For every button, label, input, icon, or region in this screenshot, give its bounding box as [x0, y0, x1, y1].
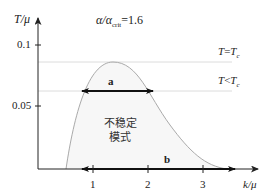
- unstable-mode-line2: 模式: [98, 131, 142, 145]
- t-equals-tc-label: T=Tc: [218, 46, 240, 60]
- arrow-a-label: a: [108, 76, 114, 87]
- arrow-b-label: b: [164, 154, 170, 165]
- unstable-mode-line1: 不稳定: [98, 117, 142, 131]
- t-less-tc-label: T<Tc: [218, 75, 240, 89]
- title-sub: crit: [112, 21, 121, 29]
- y-tick-label-0.1: 0.1: [17, 39, 31, 50]
- instability-diagram: [0, 0, 270, 196]
- x-tick-label-3: 3: [200, 179, 206, 190]
- unstable-mode-label: 不稳定 模式: [98, 117, 142, 145]
- alpha-ratio-title: α/αcrit=1.6: [96, 14, 143, 29]
- title-rhs: =1.6: [121, 13, 143, 27]
- label-sub: c: [236, 81, 239, 89]
- y-tick-label-0.05: 0.05: [12, 100, 31, 111]
- x-tick-label-2: 2: [145, 179, 151, 190]
- x-axis-label: k/μ: [243, 179, 256, 190]
- unstable-region: [66, 62, 227, 169]
- x-tick-label-1: 1: [90, 179, 96, 190]
- title-lhs: α/α: [96, 13, 112, 27]
- label-sub: c: [236, 52, 239, 60]
- y-axis-label: T/μ: [14, 13, 30, 25]
